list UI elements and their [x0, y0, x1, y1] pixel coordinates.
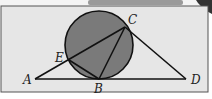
- label-A: A: [22, 73, 32, 87]
- geometry-diagram: A B C D E: [0, 0, 212, 99]
- label-D: D: [190, 73, 201, 87]
- label-E: E: [54, 51, 64, 65]
- circle: [65, 11, 133, 79]
- label-B: B: [93, 82, 103, 96]
- top-shadow-artifact: [88, 0, 183, 5]
- label-C: C: [128, 13, 137, 27]
